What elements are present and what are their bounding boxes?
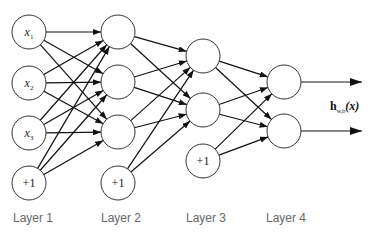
layer-1-label: Layer 1 xyxy=(13,211,53,225)
layer-2-label: Layer 2 xyxy=(101,211,141,225)
connection-arrow xyxy=(219,137,268,155)
layer-3-label: Layer 3 xyxy=(186,211,226,225)
output-subscript: w,b xyxy=(337,108,345,114)
connection-arrow xyxy=(131,121,190,172)
connection-arrow xyxy=(134,61,186,77)
output-node xyxy=(267,65,301,99)
connection-arrow xyxy=(219,88,268,105)
neural-network-diagram: x1x2x3+1+1+1 Layer 1 Layer 2 Layer 3 Lay… xyxy=(0,0,371,238)
layer-4-label: Layer 4 xyxy=(266,211,306,225)
output-function: h xyxy=(330,99,337,113)
hidden-node xyxy=(101,115,135,149)
connection-arrow xyxy=(127,70,193,169)
connection-arrow xyxy=(44,140,104,174)
bias-label: +1 xyxy=(197,154,210,168)
hidden-node xyxy=(186,39,220,73)
connection-arrow xyxy=(134,37,186,52)
connection-arrow xyxy=(38,47,110,169)
hidden-node xyxy=(101,15,135,49)
output-label: hw,b(x) xyxy=(330,99,359,114)
hidden-node xyxy=(186,93,220,127)
connection-arrow xyxy=(131,43,191,98)
connection-arrow xyxy=(219,114,267,126)
output-argument: (x) xyxy=(345,99,359,113)
connection-arrow xyxy=(134,114,186,127)
connection-arrow xyxy=(215,94,272,149)
output-node xyxy=(267,114,301,148)
bias-label: +1 xyxy=(112,176,125,190)
network-graph: x1x2x3+1+1+1 xyxy=(0,0,371,238)
hidden-node xyxy=(101,65,135,99)
connection-arrow xyxy=(134,87,187,104)
connection-arrow xyxy=(219,61,268,77)
bias-label: +1 xyxy=(23,176,36,190)
